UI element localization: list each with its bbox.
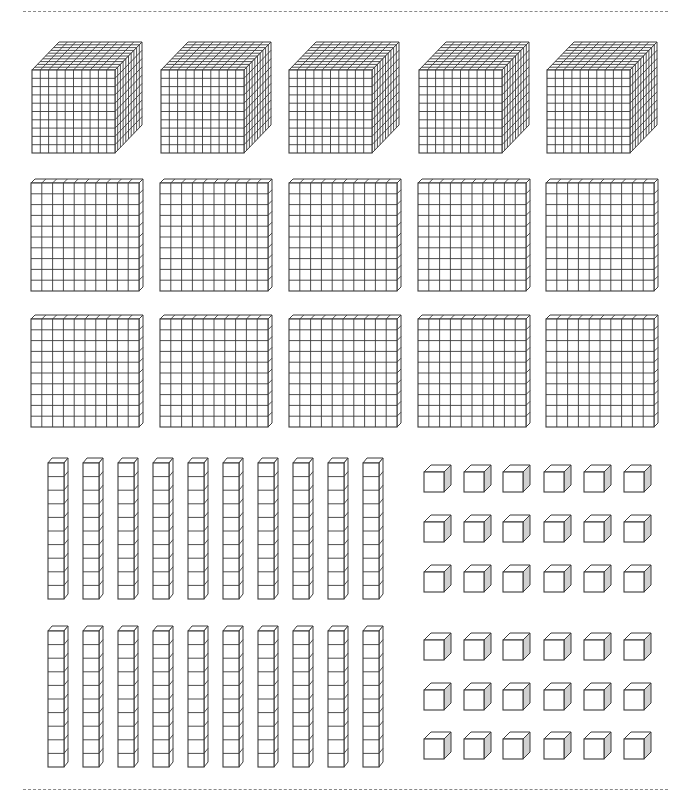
ten-rod-block [153, 626, 173, 767]
unit-cube-block [503, 565, 530, 592]
ten-rod-block [118, 458, 138, 599]
unit-cube-block [503, 683, 530, 710]
unit-cube-block [424, 683, 451, 710]
unit-cube-block [464, 683, 491, 710]
thousand-cubes-row [32, 42, 657, 153]
unit-cube-block [424, 465, 451, 492]
hundred-flat-block [160, 179, 272, 291]
unit-cubes-group [424, 465, 651, 759]
unit-cube-block [544, 515, 571, 542]
unit-cube-block [584, 683, 611, 710]
hundred-flat-block [418, 179, 530, 291]
unit-cube-block [464, 633, 491, 660]
unit-cube-block [464, 565, 491, 592]
unit-cube-block [584, 732, 611, 759]
ten-rod-block [118, 626, 138, 767]
ten-rod-block [293, 458, 313, 599]
ten-rod-block [258, 458, 278, 599]
unit-cube-block [503, 633, 530, 660]
ten-rod-block [188, 458, 208, 599]
ten-rod-block [83, 458, 103, 599]
hundred-flat-block [31, 315, 143, 427]
ten-rod-block [258, 626, 278, 767]
unit-cube-block [464, 515, 491, 542]
unit-cube-block [624, 732, 651, 759]
ten-rod-block [223, 626, 243, 767]
hundred-flat-block [546, 179, 658, 291]
unit-cube-block [584, 633, 611, 660]
unit-cube-block [424, 565, 451, 592]
unit-cube-block [424, 633, 451, 660]
hundred-flat-block [418, 315, 530, 427]
base-ten-blocks-illustration [0, 0, 687, 801]
unit-cube-block [624, 565, 651, 592]
unit-cube-block [424, 732, 451, 759]
unit-cube-block [584, 565, 611, 592]
unit-cube-block [544, 465, 571, 492]
thousand-cube-block [289, 42, 399, 153]
ten-rod-block [153, 458, 173, 599]
unit-cube-block [544, 732, 571, 759]
hundred-flat-block [160, 315, 272, 427]
unit-cube-block [584, 515, 611, 542]
unit-cube-block [503, 732, 530, 759]
unit-cube-block [464, 465, 491, 492]
ten-rod-block [363, 626, 383, 767]
ten-rod-block [188, 626, 208, 767]
ten-rod-block [83, 626, 103, 767]
unit-cube-block [544, 565, 571, 592]
unit-cube-block [584, 465, 611, 492]
ten-rod-block [223, 458, 243, 599]
hundred-flat-block [289, 315, 401, 427]
ten-rod-block [328, 626, 348, 767]
unit-cube-block [503, 465, 530, 492]
ten-rods-group [48, 458, 383, 767]
thousand-cube-block [32, 42, 142, 153]
hundred-flat-block [31, 179, 143, 291]
unit-cube-block [624, 683, 651, 710]
thousand-cube-block [547, 42, 657, 153]
hundred-flat-block [546, 315, 658, 427]
ten-rod-block [48, 626, 68, 767]
unit-cube-block [503, 515, 530, 542]
ten-rod-block [48, 458, 68, 599]
unit-cube-block [624, 633, 651, 660]
unit-cube-block [424, 515, 451, 542]
unit-cube-block [464, 732, 491, 759]
unit-cube-block [544, 633, 571, 660]
unit-cube-block [624, 465, 651, 492]
unit-cube-block [544, 683, 571, 710]
unit-cube-block [624, 515, 651, 542]
thousand-cube-block [161, 42, 271, 153]
thousand-cube-block [419, 42, 529, 153]
ten-rod-block [363, 458, 383, 599]
ten-rod-block [328, 458, 348, 599]
hundred-flats-group [31, 179, 658, 427]
ten-rod-block [293, 626, 313, 767]
hundred-flat-block [289, 179, 401, 291]
